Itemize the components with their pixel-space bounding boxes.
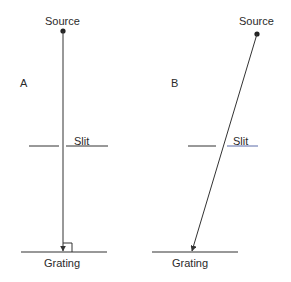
grating-label-a: Grating <box>44 257 80 269</box>
source-label-b: Source <box>239 15 274 27</box>
panel-label-b: B <box>171 77 178 89</box>
right-angle-marker-a <box>63 243 72 252</box>
slit-label-b: Slit <box>233 135 248 147</box>
panel-label-a: A <box>20 77 27 89</box>
panel-a <box>21 28 108 252</box>
source-label-a: Source <box>45 15 80 27</box>
slit-label-a: Slit <box>74 135 89 147</box>
grating-label-b: Grating <box>172 257 208 269</box>
